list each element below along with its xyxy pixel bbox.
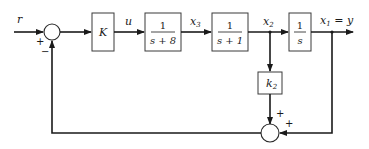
label-x2: x2 bbox=[263, 15, 274, 29]
block-gain-K: K bbox=[92, 13, 114, 51]
numerator: 1 bbox=[160, 20, 166, 31]
plus-sign-top: + bbox=[276, 108, 284, 119]
main-summing-junction: + − bbox=[36, 24, 60, 57]
block-gain-k2: k2 bbox=[258, 72, 282, 94]
label-output: x1 = y bbox=[320, 14, 354, 28]
denominator: s bbox=[297, 35, 302, 46]
block-tf-s-plus-1: 1 s + 1 bbox=[212, 13, 248, 51]
numerator: 1 bbox=[227, 20, 233, 31]
block-tf-s-plus-8: 1 s + 8 bbox=[145, 13, 181, 51]
plus-sign-right: + bbox=[285, 118, 293, 129]
block-integrator: 1 s bbox=[289, 13, 311, 51]
denominator: s + 1 bbox=[217, 35, 243, 46]
label-u: u bbox=[125, 15, 132, 28]
denominator: s + 8 bbox=[150, 35, 176, 46]
label-K: K bbox=[98, 26, 108, 39]
minus-sign: − bbox=[41, 46, 49, 57]
numerator: 1 bbox=[297, 20, 303, 31]
label-x3: x3 bbox=[190, 15, 201, 29]
wire-feedback-to-main-sum bbox=[52, 41, 261, 133]
input-signal-r: r bbox=[14, 13, 43, 32]
feedback-summing-junction: + + bbox=[261, 108, 293, 142]
block-diagram: r + − K u 1 s + 8 x3 1 s + 1 x2 1 s bbox=[0, 0, 369, 149]
label-r: r bbox=[17, 13, 23, 26]
